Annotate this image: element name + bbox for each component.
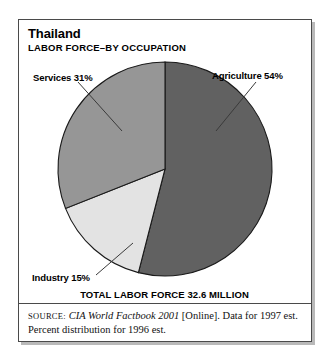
pie-label-industry: Industry 15% <box>32 272 90 283</box>
pie-label-agriculture: Agriculture 54% <box>212 70 283 81</box>
chart-figure: Thailand LABOR FORCE–BY OCCUPATION Servi… <box>0 0 329 355</box>
chart-subtitle: LABOR FORCE–BY OCCUPATION <box>28 42 186 53</box>
source-note: SOURCE: CIA World Factbook 2001 [Online]… <box>28 309 306 336</box>
total-labor-force-caption: TOTAL LABOR FORCE 32.6 MILLION <box>0 289 329 300</box>
source-prefix: SOURCE: <box>28 311 66 321</box>
source-work-title: CIA World Factbook 2001 <box>69 310 180 321</box>
page-title: Thailand <box>28 26 81 41</box>
source-divider <box>19 303 311 304</box>
pie-label-services: Services 31% <box>33 72 93 83</box>
